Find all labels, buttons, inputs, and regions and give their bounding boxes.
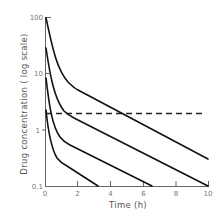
y-tick-label-10: 10 (34, 70, 43, 78)
axes (42, 17, 209, 187)
x-axis-title: Time (h) (108, 200, 147, 210)
y-tick-label-0.1: 0.1 (32, 183, 43, 191)
y-axis-title: Drug concentration ( log scale) (19, 33, 29, 174)
x-tick-label-0: 0 (43, 190, 47, 198)
curve-dose-2 (46, 48, 208, 186)
curve-dose-1 (46, 18, 208, 159)
concentration-curves (46, 18, 208, 186)
x-tick-label-6: 6 (141, 190, 146, 198)
x-tick-label-4: 4 (108, 190, 113, 198)
x-tick-label-8: 8 (174, 190, 178, 198)
x-tick-label-2: 2 (75, 190, 79, 198)
y-tick-label-1: 1 (36, 127, 40, 135)
pharmacokinetic-chart: 100 10 1 0.1 0 2 4 6 8 10 Time (h) Drug … (0, 0, 221, 216)
x-tick-label-10: 10 (204, 190, 213, 198)
curve-dose-3 (46, 78, 152, 186)
y-tick-label-100: 100 (30, 14, 43, 22)
